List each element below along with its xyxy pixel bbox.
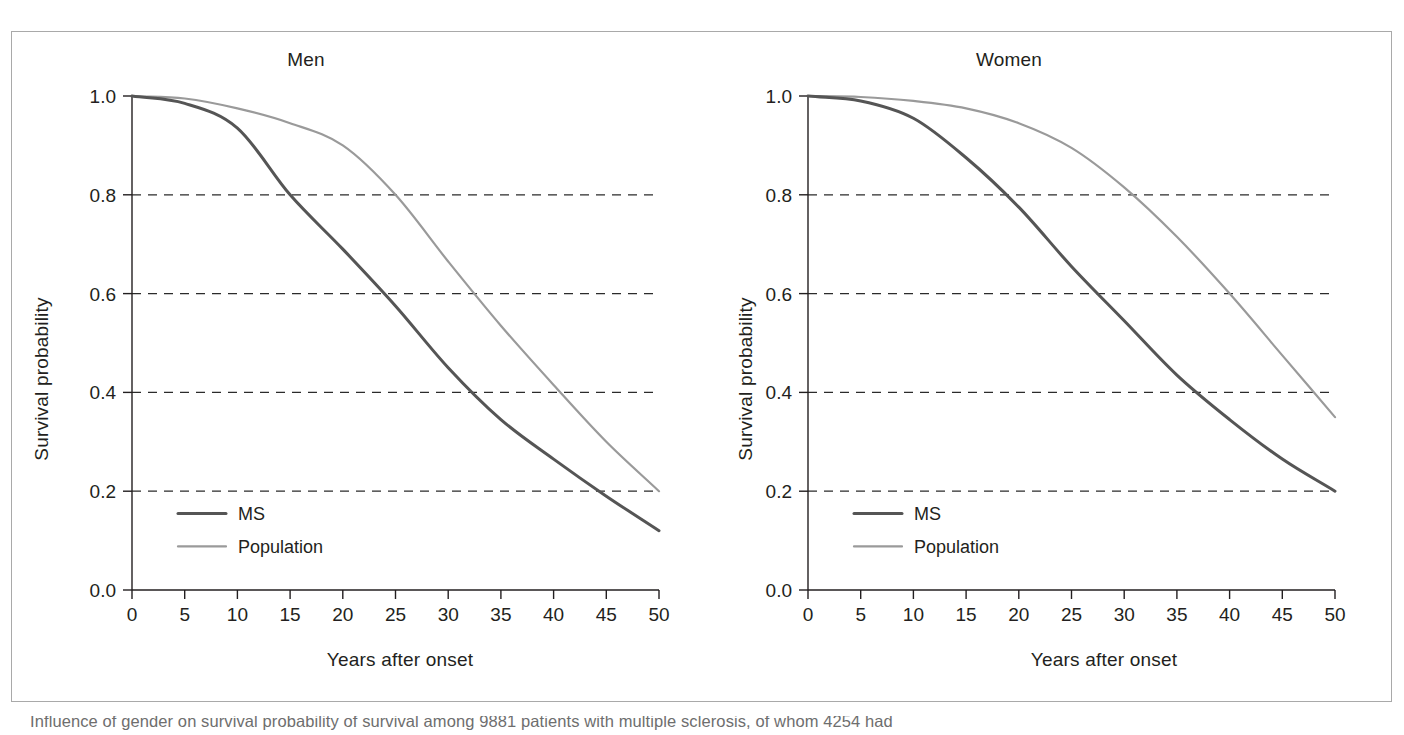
x-tick-label: 50 — [648, 604, 669, 625]
figure-caption: Influence of gender on survival probabil… — [30, 716, 1380, 731]
legend-label-population: Population — [238, 537, 323, 557]
y-tick-label: 1.0 — [766, 86, 792, 107]
x-tick-label: 40 — [1219, 604, 1240, 625]
legend-label-ms: MS — [914, 504, 941, 524]
x-tick-label: 15 — [280, 604, 301, 625]
figure-caption-strip: Influence of gender on survival probabil… — [0, 716, 1404, 735]
x-tick-label: 10 — [903, 604, 924, 625]
chart-panel-women: Women Survival probability Years after o… — [702, 32, 1392, 703]
x-tick-label: 20 — [1008, 604, 1029, 625]
y-tick-label: 0.6 — [90, 284, 116, 305]
x-tick-label: 15 — [956, 604, 977, 625]
y-tick-label: 0.4 — [90, 382, 117, 403]
x-tick-label: 10 — [227, 604, 248, 625]
x-tick-label: 20 — [332, 604, 353, 625]
legend-label-ms: MS — [238, 504, 265, 524]
legend-label-population: Population — [914, 537, 999, 557]
y-tick-label: 0.0 — [766, 580, 792, 601]
figure-frame: Men Survival probability Years after ons… — [11, 31, 1392, 702]
y-tick-label: 0.2 — [766, 481, 792, 502]
y-tick-label: 0.6 — [766, 284, 792, 305]
x-tick-label: 35 — [490, 604, 511, 625]
y-tick-label: 0.0 — [90, 580, 116, 601]
y-tick-label: 0.4 — [766, 382, 793, 403]
series-line-ms — [132, 96, 659, 531]
x-tick-label: 30 — [438, 604, 459, 625]
x-tick-label: 35 — [1166, 604, 1187, 625]
y-tick-label: 1.0 — [90, 86, 116, 107]
x-tick-label: 45 — [1272, 604, 1293, 625]
series-line-population — [808, 96, 1335, 417]
plot-area-men: 0.00.20.40.60.81.005101520253035404550MS… — [12, 32, 702, 703]
x-tick-label: 0 — [127, 604, 138, 625]
x-tick-label: 25 — [385, 604, 406, 625]
x-tick-label: 30 — [1114, 604, 1135, 625]
x-tick-label: 40 — [543, 604, 564, 625]
x-tick-label: 0 — [803, 604, 814, 625]
plot-area-women: 0.00.20.40.60.81.005101520253035404550MS… — [702, 32, 1392, 703]
y-tick-label: 0.8 — [90, 185, 116, 206]
y-tick-label: 0.2 — [90, 481, 116, 502]
x-tick-label: 25 — [1061, 604, 1082, 625]
y-tick-label: 0.8 — [766, 185, 792, 206]
x-tick-label: 50 — [1324, 604, 1345, 625]
x-tick-label: 45 — [596, 604, 617, 625]
x-tick-label: 5 — [179, 604, 190, 625]
chart-panel-men: Men Survival probability Years after ons… — [12, 32, 702, 703]
x-tick-label: 5 — [855, 604, 866, 625]
